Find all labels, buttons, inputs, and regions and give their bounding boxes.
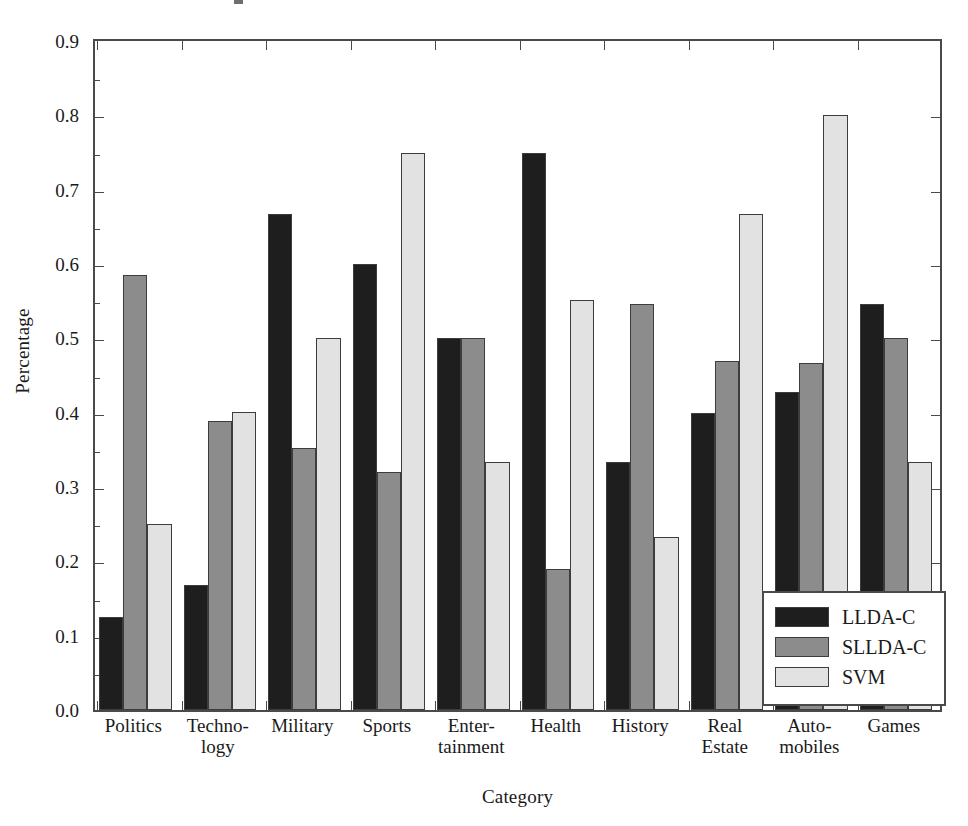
legend-label: LLDA-C xyxy=(842,607,915,627)
y-axis-minor-tick xyxy=(95,526,100,527)
x-axis-tick-label: Enter-tainment xyxy=(438,715,504,758)
x-axis-tick-bottom xyxy=(182,701,183,710)
y-axis-minor-tick xyxy=(95,378,100,379)
y-axis-tick-left xyxy=(95,340,104,341)
y-axis-minor-tick xyxy=(95,80,100,81)
x-axis-tick-label: Politics xyxy=(105,715,162,736)
y-axis-tick-label: 0.1 xyxy=(0,626,79,645)
x-axis-tick-bottom xyxy=(351,701,352,710)
x-axis-tick-top xyxy=(858,41,859,50)
bar xyxy=(461,338,485,710)
y-axis-tick-label: 0.0 xyxy=(0,701,79,720)
bar xyxy=(739,214,763,710)
bar xyxy=(353,264,377,710)
legend-item: SLLDA-C xyxy=(775,632,930,662)
bar xyxy=(123,275,147,710)
x-axis-tick-labels: PoliticsTechno-logyMilitarySportsEnter-t… xyxy=(93,715,942,785)
scan-artifact-mark xyxy=(234,0,243,4)
bar xyxy=(485,462,509,710)
bar xyxy=(715,361,739,710)
legend-label: SLLDA-C xyxy=(842,637,926,657)
bar xyxy=(208,421,232,710)
bar xyxy=(147,524,171,710)
bar xyxy=(232,412,256,710)
x-axis-tick-top xyxy=(773,41,774,50)
x-axis-tick-bottom xyxy=(689,701,690,710)
y-axis-minor-tick xyxy=(95,229,100,230)
x-axis-title: Category xyxy=(93,786,942,808)
x-axis-tick-label: Health xyxy=(530,715,581,736)
y-axis-tick-label: 0.5 xyxy=(0,329,79,348)
y-axis-tick-right xyxy=(931,117,940,118)
bar xyxy=(630,304,654,710)
y-axis-tick-right xyxy=(931,266,940,267)
x-axis-tick-top xyxy=(604,41,605,50)
bar xyxy=(691,413,715,710)
bar xyxy=(292,448,316,710)
bar xyxy=(401,153,425,711)
legend-swatch-icon xyxy=(775,637,829,657)
bar-chart-figure: Percentage 0.00.10.20.30.40.50.60.70.80.… xyxy=(0,0,968,826)
bar xyxy=(570,300,594,710)
x-axis-tick-bottom xyxy=(266,701,267,710)
x-axis-tick-top xyxy=(689,41,690,50)
y-axis-tick-left xyxy=(95,192,104,193)
y-axis-tick-label: 0.7 xyxy=(0,180,79,199)
bar xyxy=(437,338,461,710)
y-axis-tick-label: 0.8 xyxy=(0,106,79,125)
y-axis-tick-left xyxy=(95,563,104,564)
y-axis-minor-tick xyxy=(95,155,100,156)
legend-label: SVM xyxy=(842,667,885,687)
bar xyxy=(99,617,123,710)
y-axis-minor-tick xyxy=(95,303,100,304)
x-axis-tick-bottom xyxy=(604,701,605,710)
y-axis-tick-left xyxy=(95,415,104,416)
legend-item: LLDA-C xyxy=(775,602,930,632)
bar xyxy=(316,338,340,710)
y-axis-tick-right xyxy=(931,340,940,341)
y-axis-tick-left xyxy=(95,266,104,267)
y-axis-tick-right xyxy=(931,489,940,490)
x-axis-tick-top xyxy=(435,41,436,50)
x-axis-tick-top xyxy=(182,41,183,50)
y-axis-tick-left xyxy=(95,489,104,490)
y-axis-tick-left xyxy=(95,117,104,118)
y-axis-tick-label: 0.2 xyxy=(0,552,79,571)
y-axis-minor-tick xyxy=(95,452,100,453)
x-axis-tick-label: History xyxy=(612,715,669,736)
y-axis-tick-labels: 0.00.10.20.30.40.50.60.70.80.9 xyxy=(0,39,85,712)
x-axis-tick-bottom xyxy=(435,701,436,710)
x-axis-tick-top xyxy=(351,41,352,50)
y-axis-tick-label: 0.6 xyxy=(0,255,79,274)
y-axis-tick-label: 0.3 xyxy=(0,478,79,497)
x-axis-tick-label: Military xyxy=(271,715,333,736)
y-axis-tick-right xyxy=(931,563,940,564)
y-axis-tick-right xyxy=(931,415,940,416)
x-axis-tick-top xyxy=(97,41,98,50)
x-axis-tick-label: Sports xyxy=(363,715,412,736)
bar xyxy=(606,462,630,710)
legend-swatch-icon xyxy=(775,607,829,627)
x-axis-tick-label: RealEstate xyxy=(702,715,748,758)
x-axis-tick-top xyxy=(266,41,267,50)
x-axis-tick-bottom xyxy=(97,701,98,710)
bar xyxy=(546,569,570,710)
bar xyxy=(654,537,678,710)
legend-item: SVM xyxy=(775,662,930,692)
y-axis-tick-label: 0.9 xyxy=(0,32,79,51)
x-axis-tick-bottom xyxy=(520,701,521,710)
x-axis-tick-label: Auto-mobiles xyxy=(779,715,839,758)
bar xyxy=(522,153,546,711)
y-axis-tick-right xyxy=(931,192,940,193)
bar xyxy=(268,214,292,710)
x-axis-tick-top xyxy=(520,41,521,50)
legend-swatch-icon xyxy=(775,667,829,687)
bar xyxy=(184,585,208,710)
x-axis-tick-label: Games xyxy=(867,715,920,736)
y-axis-minor-tick xyxy=(95,601,100,602)
x-axis-tick-label: Techno-logy xyxy=(187,715,249,758)
y-axis-tick-label: 0.4 xyxy=(0,403,79,422)
chart-legend: LLDA-CSLLDA-CSVM xyxy=(762,591,946,706)
bar xyxy=(377,472,401,710)
